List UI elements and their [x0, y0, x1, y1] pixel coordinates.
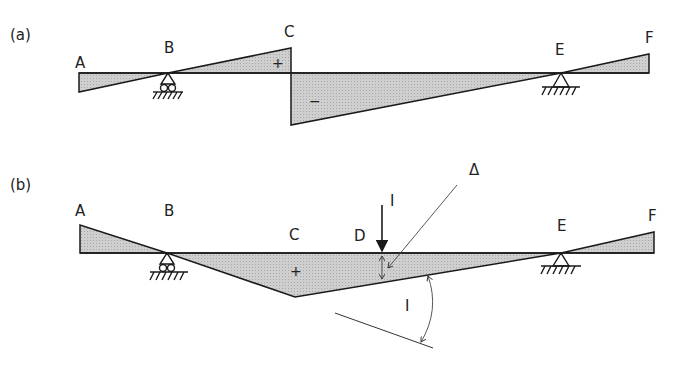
region-ef-positive — [561, 54, 649, 73]
negative-sign: − — [309, 93, 321, 109]
unit-load-label: I — [390, 192, 394, 210]
region-ce-negative — [291, 73, 561, 125]
positive-sign: + — [290, 263, 302, 279]
angle-arc-icon — [421, 276, 433, 342]
region-be-positive — [167, 253, 561, 297]
region-ef — [561, 232, 654, 253]
point-d-label: D — [354, 227, 366, 245]
point-e-label: E — [555, 41, 564, 59]
influence-line-diagram: (a) A B C E F + − — [0, 0, 690, 366]
point-c-label: C — [284, 23, 294, 41]
panel-b: (b) A B C — [10, 161, 657, 348]
positive-sign: + — [272, 55, 284, 71]
point-f-label: F — [648, 207, 657, 225]
point-f-label: F — [645, 29, 654, 47]
point-c-label: C — [289, 226, 299, 244]
point-a-label: A — [75, 54, 86, 72]
point-e-label: E — [557, 217, 566, 235]
region-ab-negative — [79, 73, 168, 92]
point-b-label: B — [164, 202, 174, 220]
pin-support-icon — [541, 253, 581, 274]
reference-line — [335, 313, 433, 348]
panel-a-label: (a) — [10, 26, 31, 44]
region-ab-positive — [80, 225, 167, 253]
delta-label: Δ — [469, 161, 480, 179]
point-b-label: B — [164, 39, 174, 57]
angle-label: I — [405, 297, 409, 315]
roller-support-icon — [153, 73, 183, 99]
point-a-label: A — [75, 202, 86, 220]
panel-a: (a) A B C E F + − — [10, 23, 654, 125]
panel-b-label: (b) — [10, 176, 31, 194]
